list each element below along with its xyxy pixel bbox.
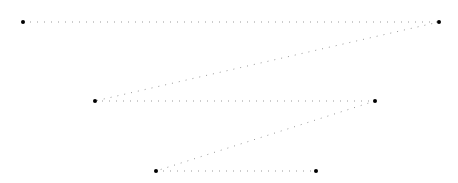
vertex-dot: [437, 20, 441, 24]
path-vertices: [21, 20, 441, 173]
vertex-dot: [373, 99, 377, 103]
zigzag-path-diagram: [0, 0, 458, 183]
vertex-dot: [93, 99, 97, 103]
vertex-dot: [154, 169, 158, 173]
dotted-segment: [156, 101, 375, 171]
dotted-connector-lines: [23, 22, 439, 171]
vertex-dot: [314, 169, 318, 173]
dotted-segment: [95, 22, 439, 101]
vertex-dot: [21, 20, 25, 24]
